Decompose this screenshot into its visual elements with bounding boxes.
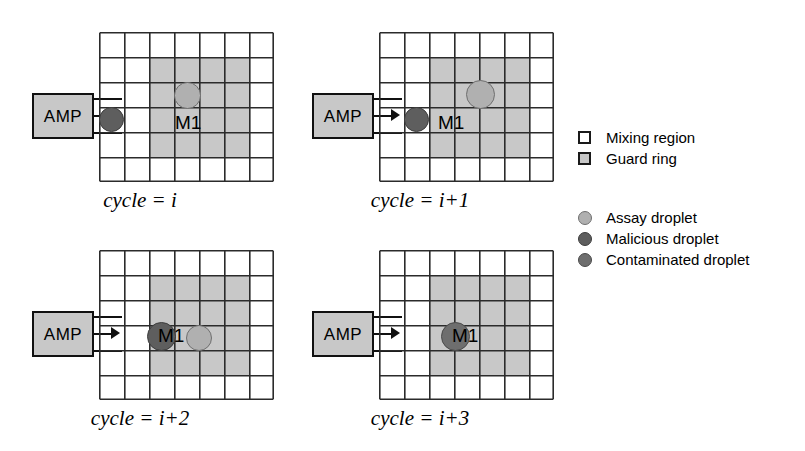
module-label-m1: M1	[452, 326, 478, 345]
legend-item-assay-droplet: Assay droplet	[578, 208, 749, 227]
amp-label: AMP	[44, 326, 82, 343]
amp-label: AMP	[324, 326, 362, 343]
panel-cycle-i-plus-3: AMP M1 cycle = i+3	[280, 228, 560, 408]
legend-item-malicious-droplet: Malicious droplet	[578, 229, 749, 248]
panel-caption: cycle = i+1	[280, 188, 560, 213]
legend-group-regions: Mixing region Guard ring	[578, 128, 749, 168]
guard-ring-swatch	[578, 152, 591, 165]
module-label-m1: M1	[175, 113, 201, 132]
assay-droplet	[466, 80, 495, 109]
legend-label: Mixing region	[606, 130, 695, 145]
panel-stage: AMP M1 cycle = i+1	[280, 10, 560, 190]
contaminated-droplet-swatch	[578, 253, 592, 267]
amp-module-box: AMP	[32, 311, 94, 357]
panel-cycle-i: AMP M1 cycle = i	[0, 10, 280, 190]
panel-stage: AMP M1 cycle = i	[0, 10, 280, 190]
chip-grid	[99, 250, 274, 400]
panel-caption: cycle = i+3	[280, 406, 560, 431]
legend-item-guard-ring: Guard ring	[578, 149, 749, 168]
legend-label: Assay droplet	[606, 210, 697, 225]
panel-stage: AMP M1 cycle = i+3	[280, 228, 560, 408]
amp-module-box: AMP	[312, 311, 374, 357]
malicious-droplet-swatch	[578, 232, 592, 246]
amp-label: AMP	[44, 108, 82, 125]
legend-label: Guard ring	[606, 151, 677, 166]
legend-swatch-wrap	[578, 232, 606, 246]
module-label-m1: M1	[438, 113, 464, 132]
grid-lines	[99, 250, 274, 400]
grid-lines	[379, 32, 554, 182]
malicious-droplet	[404, 107, 429, 132]
legend-item-mixing-region: Mixing region	[578, 128, 749, 147]
panel-cycle-i-plus-1: AMP M1 cycle = i+1	[280, 10, 560, 190]
amp-label: AMP	[324, 108, 362, 125]
amp-module-box: AMP	[312, 93, 374, 139]
legend-swatch-wrap	[578, 131, 606, 144]
chip-grid	[379, 32, 554, 182]
module-label-m1: M1	[158, 326, 184, 345]
legend-item-contaminated-droplet: Contaminated droplet	[578, 250, 749, 269]
assay-droplet	[186, 325, 212, 351]
panel-cycle-i-plus-2: AMP M1 cycle = i+2	[0, 228, 280, 408]
assay-droplet	[174, 82, 201, 109]
legend-swatch-wrap	[578, 152, 606, 165]
panel-stage: AMP M1 cycle = i+2	[0, 228, 280, 408]
mixing-region-swatch	[578, 131, 591, 144]
legend-label: Contaminated droplet	[606, 252, 749, 267]
legend-divider	[578, 170, 749, 208]
legend-group-droplets: Assay droplet Malicious droplet Contamin…	[578, 208, 749, 269]
assay-droplet-swatch	[578, 211, 592, 225]
panel-caption: cycle = i	[0, 188, 280, 213]
legend-swatch-wrap	[578, 253, 606, 267]
amp-module-box: AMP	[32, 93, 94, 139]
figure-canvas: AMP M1 cycle = i	[0, 0, 805, 451]
legend: Mixing region Guard ring Assay droplet	[578, 128, 749, 271]
panel-caption: cycle = i+2	[0, 406, 280, 431]
legend-label: Malicious droplet	[606, 231, 719, 246]
legend-swatch-wrap	[578, 211, 606, 225]
malicious-droplet	[99, 107, 124, 132]
